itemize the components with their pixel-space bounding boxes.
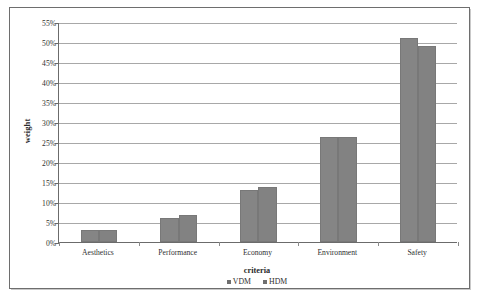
- y-axis-tick-label: 40%: [22, 79, 56, 88]
- bar-vdm-environment: [320, 137, 338, 242]
- bar-vdm-performance: [160, 218, 178, 242]
- bar-vdm-safety: [400, 38, 418, 242]
- bar-group: [240, 23, 277, 242]
- y-axis-tickmark: [55, 83, 59, 84]
- x-axis-category-label: Performance: [158, 248, 197, 257]
- x-axis-tickmark: [458, 242, 459, 246]
- x-axis-tickmark: [378, 242, 379, 246]
- y-axis-tickmark: [55, 143, 59, 144]
- bar-hdm-aesthetics: [99, 230, 117, 242]
- y-axis-tickmark: [55, 63, 59, 64]
- bar-hdm-economy: [258, 187, 276, 242]
- y-axis-tick-label: 15%: [22, 179, 56, 188]
- x-axis-tickmark: [219, 242, 220, 246]
- x-axis-category-label: Environment: [317, 248, 357, 257]
- legend-label: HDM: [269, 278, 287, 286]
- y-axis-tickmark: [55, 43, 59, 44]
- legend-entry-hdm: HDM: [263, 278, 287, 286]
- bar-hdm-safety: [418, 46, 436, 242]
- y-axis-tickmark: [55, 163, 59, 164]
- bar-hdm-environment: [338, 137, 356, 242]
- figure-frame: weight 0%5%10%15%20%25%30%35%40%45%50%55…: [9, 7, 470, 289]
- bar-group: [400, 23, 437, 242]
- bar-group: [320, 23, 357, 242]
- x-axis-category-label: Economy: [243, 248, 272, 257]
- x-axis-category-labels: AestheticsPerformanceEconomyEnvironmentS…: [58, 248, 456, 262]
- y-axis-tick-label: 35%: [22, 99, 56, 108]
- y-axis-tick-label: 25%: [22, 139, 56, 148]
- y-axis-tickmark: [55, 203, 59, 204]
- y-axis-tickmark: [55, 223, 59, 224]
- bar-group: [81, 23, 118, 242]
- y-axis-tick-label: 5%: [22, 219, 56, 228]
- y-axis-tickmark: [55, 23, 59, 24]
- y-axis-tickmark: [55, 103, 59, 104]
- y-axis-tick-label: 10%: [22, 199, 56, 208]
- y-axis-tick-label: 45%: [22, 59, 56, 68]
- y-axis-tick-label: 50%: [22, 39, 56, 48]
- x-axis-tickmark: [59, 242, 60, 246]
- y-axis-tick-label: 30%: [22, 119, 56, 128]
- x-axis-tickmark: [298, 242, 299, 246]
- x-axis-category-label: Aesthetics: [82, 248, 114, 257]
- y-axis-tickmark: [55, 123, 59, 124]
- y-axis-tickmark: [55, 183, 59, 184]
- legend-label: VDM: [233, 278, 251, 286]
- plot-area: [58, 23, 457, 243]
- bar-group: [160, 23, 197, 242]
- y-axis-tick-label: 0%: [22, 239, 56, 248]
- y-axis-tick-label: 20%: [22, 159, 56, 168]
- x-axis-title: criteria: [58, 266, 456, 275]
- bar-vdm-aesthetics: [81, 230, 99, 242]
- legend-swatch-icon: [263, 280, 267, 284]
- bar-hdm-performance: [179, 215, 197, 242]
- x-axis-category-label: Safety: [407, 248, 426, 257]
- y-axis-tick-labels: 0%5%10%15%20%25%30%35%40%45%50%55%: [18, 8, 56, 290]
- bar-chart: weight 0%5%10%15%20%25%30%35%40%45%50%55…: [10, 8, 471, 290]
- y-axis-tick-label: 55%: [22, 19, 56, 28]
- bar-vdm-economy: [240, 190, 258, 242]
- legend-swatch-icon: [227, 280, 231, 284]
- chart-legend: VDMHDM: [58, 278, 456, 286]
- x-axis-tickmark: [139, 242, 140, 246]
- legend-entry-vdm: VDM: [227, 278, 251, 286]
